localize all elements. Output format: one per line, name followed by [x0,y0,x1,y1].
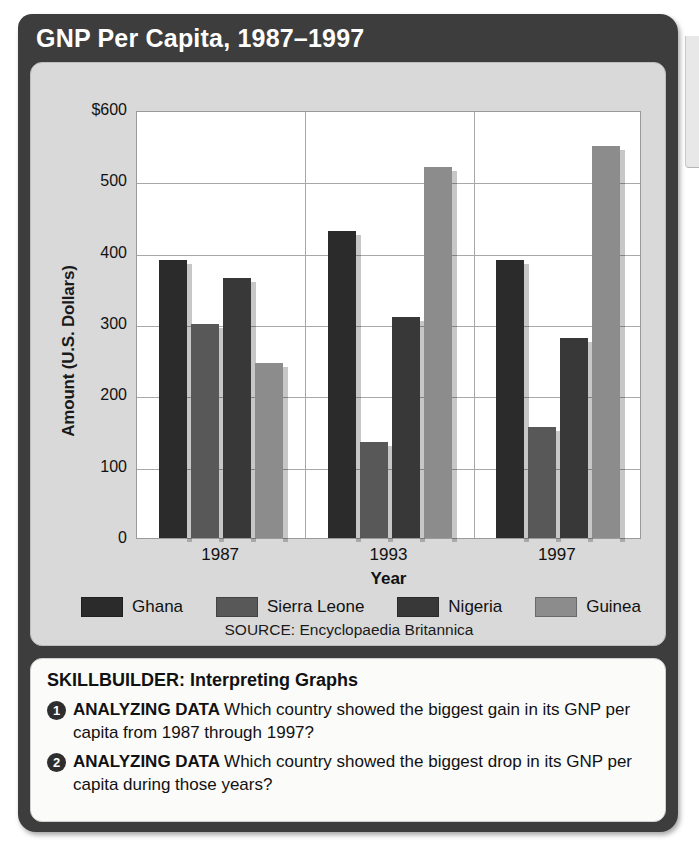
legend-swatch-icon [397,597,439,617]
bar-sierra-leone-1993 [360,442,388,538]
bar-sierra-leone-1987 [191,324,219,538]
x-axis-tick: 1987 [140,545,300,565]
bar-ghana-1993 [328,231,356,538]
legend-label: Guinea [586,597,641,617]
legend-swatch-icon [81,597,123,617]
question-lead: ANALYZING DATA [73,700,224,719]
bar-nigeria-1987 [223,278,251,538]
bar-ghana-1997 [496,260,524,538]
y-axis-tick: 300 [37,315,127,333]
y-axis-tick: 0 [37,529,127,547]
legend-label: Nigeria [448,597,502,617]
y-axis-tick: $600 [37,101,127,119]
legend-label: Ghana [132,597,183,617]
bar-guinea-1987 [255,363,283,538]
page-edge-artifact [685,36,699,168]
question-lead: ANALYZING DATA [73,752,224,771]
x-axis-label: Year [136,569,641,589]
x-axis-tick: 1993 [309,545,469,565]
bar-sierra-leone-1997 [528,427,556,538]
legend-swatch-icon [216,597,258,617]
x-axis-tick: 1997 [477,545,637,565]
legend-item-ghana: Ghana [81,597,183,617]
legend-item-sierra-leone: Sierra Leone [216,597,364,617]
question-number-badge: 1 [47,701,66,720]
skillbuilder-questions: 1ANALYZING DATA Which country showed the… [47,698,649,796]
chart-panel: Amount (U.S. Dollars) 0100200300400500$6… [30,62,666,646]
bar-guinea-1997 [592,146,620,538]
gridline [137,183,640,184]
bar-guinea-1993 [424,167,452,538]
skillbuilder-panel: SKILLBUILDER: Interpreting Graphs 1ANALY… [30,658,666,822]
bar-nigeria-1993 [392,317,420,538]
legend-swatch-icon [535,597,577,617]
gridline [137,255,640,256]
y-axis-tick: 100 [37,458,127,476]
question-number-badge: 2 [47,753,66,772]
figure-title-tab: GNP Per Capita, 1987–1997 [18,14,408,62]
page-title: GNP Per Capita, 1987–1997 [36,24,364,53]
group-divider [305,112,306,538]
y-axis-tick: 200 [37,386,127,404]
legend-label: Sierra Leone [267,597,364,617]
group-divider [474,112,475,538]
skillbuilder-heading: SKILLBUILDER: Interpreting Graphs [47,670,649,691]
question-text: ANALYZING DATA Which country showed the … [73,698,649,744]
bar-nigeria-1997 [560,338,588,538]
source-credit: SOURCE: Encyclopaedia Britannica [31,621,666,639]
plot-wrapper: Amount (U.S. Dollars) 0100200300400500$6… [31,63,666,646]
skillbuilder-question: 2ANALYZING DATA Which country showed the… [47,750,649,796]
legend-item-guinea: Guinea [535,597,641,617]
plot-area [136,111,641,539]
y-axis-tick: 500 [37,172,127,190]
skillbuilder-question: 1ANALYZING DATA Which country showed the… [47,698,649,744]
chart-legend: GhanaSierra LeoneNigeriaGuinea [81,597,641,617]
legend-item-nigeria: Nigeria [397,597,502,617]
y-axis-tick: 400 [37,244,127,262]
bar-ghana-1987 [159,260,187,538]
question-text: ANALYZING DATA Which country showed the … [73,750,649,796]
